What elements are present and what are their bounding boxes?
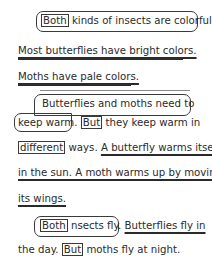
p3-line2: the day. But moths fly at night. (18, 243, 180, 256)
p2-line5: its wings. (18, 192, 66, 205)
p1-line1: Both kinds of insects are colorful. (41, 14, 212, 27)
p2-line3: different ways. A butterfly warms itself (18, 141, 212, 154)
p1-line3: Moths have pale colors. (18, 70, 139, 83)
underline-bar (40, 90, 190, 91)
signal-word-box: Both (41, 14, 69, 27)
underline-bar (18, 58, 183, 60)
p1-line2: Most butterflies have bright colors. (18, 44, 197, 57)
p2-line2: keep warm. But they keep warm in (18, 116, 200, 129)
signal-word-box: Both (40, 219, 68, 232)
p2-line4: in the sun. A moth warms up by moving (18, 166, 212, 179)
p3-line1: Both nsects fly. Butterflies fly in (40, 219, 206, 232)
p2-line1: Butterflies and moths need to (42, 97, 194, 110)
underline-bar (18, 84, 131, 86)
signal-word-box: different (18, 141, 65, 154)
signal-word-box: But (81, 116, 102, 129)
signal-word-box: But (62, 243, 83, 256)
